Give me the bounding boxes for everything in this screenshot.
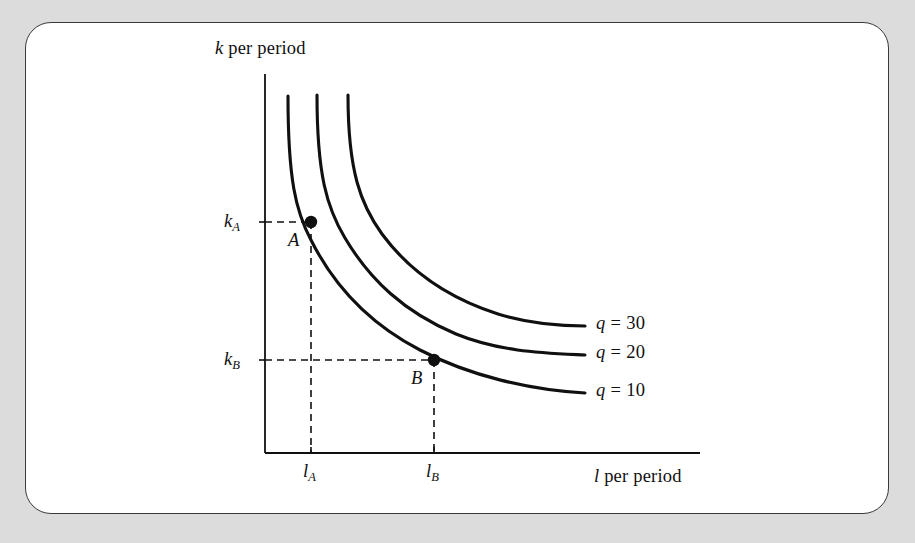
y-tick-label-k-b-sub: B bbox=[232, 358, 240, 372]
y-axis-label-text: per period bbox=[223, 38, 305, 58]
isoquant-curve-q20 bbox=[317, 95, 585, 355]
x-tick-label-l-b: lB bbox=[426, 461, 439, 485]
isoquant-chart bbox=[0, 0, 915, 543]
point-label-b: B bbox=[411, 368, 422, 389]
curve-label-q20-variable: q bbox=[596, 342, 606, 362]
y-tick-label-k-b: kB bbox=[224, 349, 240, 373]
data-point-a bbox=[305, 216, 317, 228]
data-point-b bbox=[428, 354, 440, 366]
curve-label-q10-variable: q bbox=[596, 380, 606, 400]
curve-label-q30-variable: q bbox=[596, 313, 606, 333]
curve-label-q10-value: = 10 bbox=[606, 380, 646, 400]
x-tick-label-l-b-sub: B bbox=[431, 470, 439, 484]
y-axis-label: k per period bbox=[215, 38, 306, 59]
point-label-a: A bbox=[288, 230, 299, 251]
curve-label-q20: q = 20 bbox=[596, 342, 645, 363]
curve-label-q10: q = 10 bbox=[596, 380, 645, 401]
curve-label-q20-value: = 20 bbox=[606, 342, 646, 362]
x-axis-label-text: per period bbox=[599, 466, 681, 486]
y-tick-label-k-a-sub: A bbox=[232, 220, 240, 234]
isoquant-curve-q30 bbox=[348, 95, 585, 326]
x-axis-label: l per period bbox=[594, 466, 682, 487]
curve-label-q30: q = 30 bbox=[596, 313, 645, 334]
y-tick-label-k-b-base: k bbox=[224, 349, 232, 369]
y-tick-label-k-a: kA bbox=[224, 211, 240, 235]
isoquant-curve-q10 bbox=[288, 96, 585, 393]
curve-label-q30-value: = 30 bbox=[606, 313, 646, 333]
y-tick-label-k-a-base: k bbox=[224, 211, 232, 231]
x-tick-label-l-a-sub: A bbox=[308, 470, 316, 484]
x-tick-label-l-a: lA bbox=[303, 461, 316, 485]
